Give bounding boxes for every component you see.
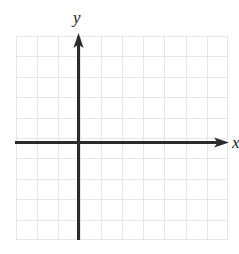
plot-area — [16, 36, 228, 240]
x-axis-label: x — [232, 134, 239, 151]
gridlines — [16, 36, 228, 240]
y-axis-label: y — [73, 9, 81, 26]
coordinate-grid-figure: y x — [0, 0, 239, 254]
